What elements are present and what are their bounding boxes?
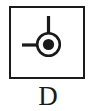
symbol-figure: D (0, 0, 96, 111)
datum-target-point-symbol (9, 6, 87, 81)
filled-center-dot-icon (43, 39, 54, 50)
figure-caption-label: D (0, 82, 96, 110)
